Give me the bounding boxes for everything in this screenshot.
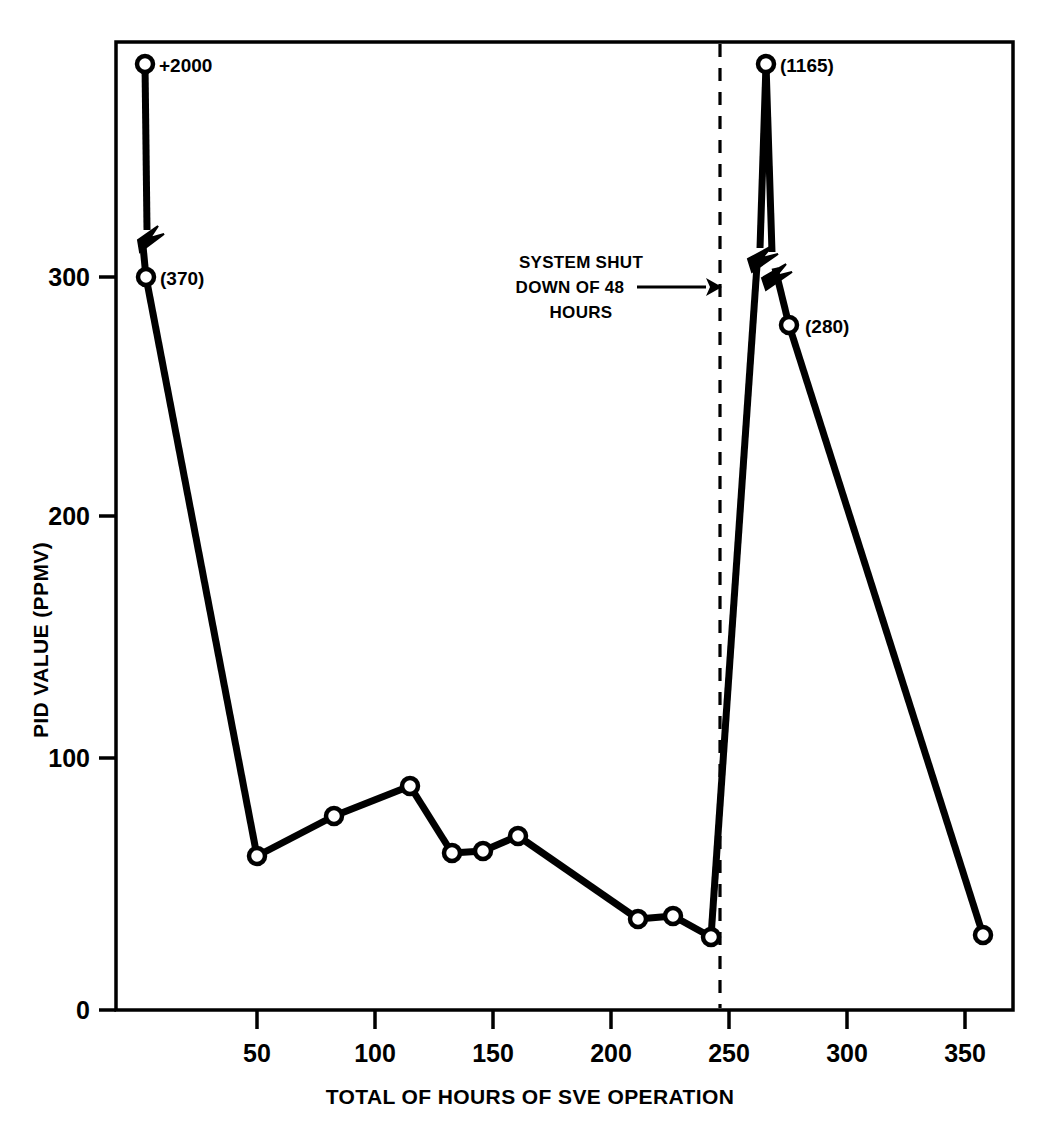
data-point-marker[interactable] — [665, 908, 681, 924]
point-label-370: (370) — [160, 268, 204, 289]
data-point-marker[interactable] — [402, 778, 418, 794]
x-tick-label-200: 200 — [590, 1039, 632, 1067]
line-chart: 0 100 200 300 PID VALUE (PPMV) 50 100 15… — [0, 0, 1051, 1131]
annotation-line-2: DOWN OF 48 — [516, 278, 625, 297]
data-point-marker[interactable] — [444, 845, 460, 861]
data-point-marker[interactable] — [326, 808, 342, 824]
point-label-1165: (1165) — [780, 55, 834, 76]
annotation-line-1: SYSTEM SHUT — [519, 253, 644, 272]
chart-background — [0, 0, 1051, 1131]
x-tick-label-250: 250 — [708, 1039, 750, 1067]
data-point-marker[interactable] — [475, 843, 491, 859]
x-tick-label-100: 100 — [354, 1039, 396, 1067]
data-point-marker[interactable] — [781, 317, 797, 333]
annotation-line-3: HOURS — [550, 303, 613, 322]
y-tick-label-100: 100 — [48, 744, 90, 772]
data-point-marker[interactable] — [758, 56, 774, 72]
x-axis-title: TOTAL OF HOURS OF SVE OPERATION — [326, 1085, 735, 1108]
y-tick-label-300: 300 — [48, 263, 90, 291]
x-tick-label-300: 300 — [826, 1039, 868, 1067]
data-point-marker[interactable] — [138, 269, 154, 285]
x-tick-label-150: 150 — [472, 1039, 514, 1067]
data-point-marker[interactable] — [630, 911, 646, 927]
y-tick-label-200: 200 — [48, 502, 90, 530]
chart-container: 0 100 200 300 PID VALUE (PPMV) 50 100 15… — [0, 0, 1051, 1131]
data-point-marker[interactable] — [137, 56, 153, 72]
x-tick-label-50: 50 — [243, 1039, 271, 1067]
point-label-plus2000: +2000 — [159, 55, 212, 76]
y-tick-label-0: 0 — [76, 996, 90, 1024]
x-tick-label-350: 350 — [944, 1039, 986, 1067]
data-point-marker[interactable] — [703, 929, 719, 945]
data-point-marker[interactable] — [510, 828, 526, 844]
point-label-280: (280) — [805, 316, 849, 337]
y-axis-title: PID VALUE (PPMV) — [29, 542, 52, 738]
data-point-marker[interactable] — [249, 848, 265, 864]
data-point-marker[interactable] — [975, 927, 991, 943]
